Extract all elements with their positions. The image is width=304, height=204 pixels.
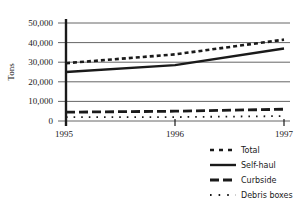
y-tick-label: 40,000 bbox=[28, 38, 53, 48]
x-tick-label: 1995 bbox=[55, 129, 74, 139]
legend-label: Curbside bbox=[241, 176, 276, 185]
y-tick-label: 0 bbox=[49, 116, 54, 126]
x-tick-label: 1996 bbox=[166, 129, 185, 139]
series-debris-boxes-line bbox=[66, 116, 284, 117]
x-axis-ticks: 199519961997 bbox=[55, 119, 294, 139]
series-curbside-line bbox=[66, 109, 284, 112]
legend-label: Total bbox=[240, 146, 260, 155]
legend-label: Debris boxes bbox=[241, 191, 293, 200]
line-chart: 010,00020,00030,00040,00050,000 19951996… bbox=[0, 0, 304, 204]
legend: TotalSelf-haulCurbsideDebris boxes bbox=[210, 146, 293, 200]
gridlines bbox=[58, 23, 290, 121]
series-total-line bbox=[66, 40, 284, 64]
y-tick-label: 30,000 bbox=[28, 57, 53, 67]
y-axis-ticks: 010,00020,00030,00040,00050,000 bbox=[28, 18, 53, 126]
y-tick-label: 20,000 bbox=[28, 77, 53, 87]
legend-label: Self-haul bbox=[241, 161, 276, 170]
series-self-haul-line bbox=[66, 48, 284, 72]
y-tick-label: 10,000 bbox=[28, 96, 53, 106]
y-axis-label: Tons bbox=[6, 63, 16, 81]
y-tick-label: 50,000 bbox=[28, 18, 53, 28]
x-tick-label: 1997 bbox=[275, 129, 294, 139]
data-series bbox=[66, 40, 284, 117]
